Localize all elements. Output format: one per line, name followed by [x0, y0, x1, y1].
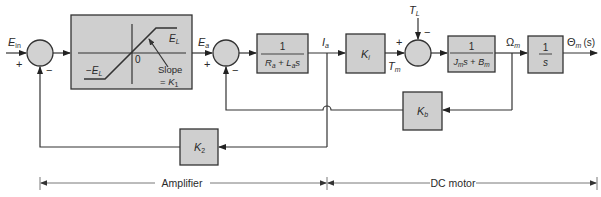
- dc-motor-section-label: DC motor: [431, 177, 476, 189]
- amplifier-section-label: Amplifier: [162, 177, 203, 189]
- torque-constant-block: Ki: [346, 34, 385, 73]
- current-signal-label: Ia: [322, 36, 329, 49]
- summing-junction-2: + −: [204, 40, 239, 76]
- sum3-plus-sign: +: [396, 36, 402, 48]
- sum1-plus-sign: +: [16, 58, 22, 70]
- slope-label-line1: Slope: [158, 64, 182, 75]
- back-emf-block: Kb: [403, 92, 442, 130]
- block-diagram: + − + − + − 0 EL −EL Slope = K1 1 Ra + L…: [0, 0, 601, 197]
- sum3-minus-sign: −: [424, 26, 430, 38]
- dimension-lines: Amplifier DC motor: [40, 177, 597, 190]
- saturation-block: 0 EL −EL Slope = K1: [71, 15, 192, 89]
- sum1-minus-sign: −: [46, 64, 52, 76]
- integrator-denominator: s: [543, 57, 548, 68]
- torque-signal-label: Tm: [388, 60, 401, 73]
- speed-signal-label: Ωm: [506, 36, 520, 49]
- armature-numerator: 1: [280, 41, 286, 52]
- input-signal-label: Ein: [8, 36, 21, 49]
- sum2-minus-sign: −: [232, 64, 238, 76]
- summing-junction-1: + −: [16, 40, 53, 76]
- armature-denominator: Ra + Las: [265, 57, 300, 69]
- integrator-block: 1 s: [528, 36, 563, 73]
- integrator-numerator: 1: [543, 42, 549, 53]
- sum2-plus-sign: +: [204, 58, 210, 70]
- output-signal-label: Θm(s): [567, 36, 595, 49]
- summing-junction-3: + −: [396, 26, 431, 66]
- origin-label: 0: [135, 54, 141, 65]
- mechanical-block: 1 Jms + Bm: [448, 36, 495, 72]
- current-feedback-block: K2: [180, 129, 218, 165]
- armature-block: 1 Ra + Las: [257, 34, 308, 73]
- load-torque-label: TL: [409, 4, 420, 17]
- mechanical-numerator: 1: [469, 41, 475, 52]
- amp-output-signal-label: Ea: [198, 36, 209, 49]
